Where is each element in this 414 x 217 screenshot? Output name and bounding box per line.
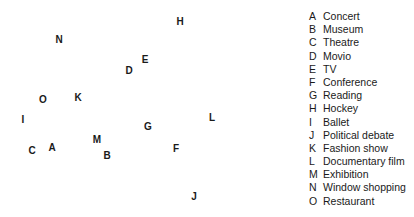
legend-key: J xyxy=(309,129,323,142)
legend-label: Restaurant xyxy=(323,195,374,208)
legend: AConcertBMuseumCTheatreDMovioETVFConfere… xyxy=(309,10,406,208)
legend-key: A xyxy=(309,10,323,23)
legend-key: G xyxy=(309,89,323,102)
legend-label: TV xyxy=(323,63,336,76)
legend-item: FConference xyxy=(309,76,406,89)
legend-key: K xyxy=(309,142,323,155)
point-b: B xyxy=(103,151,110,161)
legend-item: ORestaurant xyxy=(309,195,406,208)
point-n: N xyxy=(55,35,62,45)
point-f: F xyxy=(173,144,179,154)
legend-label: Exhibition xyxy=(323,168,369,181)
legend-label: Hockey xyxy=(323,102,358,115)
legend-item: KFashion show xyxy=(309,142,406,155)
point-d: D xyxy=(125,66,132,76)
point-o: O xyxy=(39,95,47,105)
legend-key: D xyxy=(309,50,323,63)
legend-item: LDocumentary film xyxy=(309,155,406,168)
legend-label: Ballet xyxy=(323,116,349,129)
legend-item: JPolitical debate xyxy=(309,129,406,142)
legend-item: IBallet xyxy=(309,116,406,129)
legend-label: Fashion show xyxy=(323,142,388,155)
legend-item: AConcert xyxy=(309,10,406,23)
legend-label: Window shopping xyxy=(323,181,406,194)
legend-key: N xyxy=(309,181,323,194)
point-i: I xyxy=(22,115,25,125)
legend-key: F xyxy=(309,76,323,89)
legend-item: ETV xyxy=(309,63,406,76)
legend-label: Movio xyxy=(323,50,351,63)
legend-item: HHockey xyxy=(309,102,406,115)
legend-key: I xyxy=(309,116,323,129)
legend-item: MExhibition xyxy=(309,168,406,181)
legend-label: Documentary film xyxy=(323,155,405,168)
point-g: G xyxy=(144,122,152,132)
legend-key: C xyxy=(309,36,323,49)
point-a: A xyxy=(48,143,55,153)
point-m: M xyxy=(93,135,101,145)
perceptual-map-plot: ABCDEFGHIJKLMNO xyxy=(0,0,290,217)
legend-label: Theatre xyxy=(323,36,359,49)
legend-key: O xyxy=(309,195,323,208)
legend-label: Political debate xyxy=(323,129,394,142)
legend-item: DMovio xyxy=(309,50,406,63)
legend-key: M xyxy=(309,168,323,181)
legend-item: GReading xyxy=(309,89,406,102)
legend-label: Concert xyxy=(323,10,360,23)
legend-key: L xyxy=(309,155,323,168)
point-j: J xyxy=(191,192,197,202)
legend-key: B xyxy=(309,23,323,36)
point-e: E xyxy=(142,55,149,65)
legend-label: Museum xyxy=(323,23,363,36)
legend-item: BMuseum xyxy=(309,23,406,36)
legend-label: Reading xyxy=(323,89,362,102)
legend-item: CTheatre xyxy=(309,36,406,49)
legend-key: E xyxy=(309,63,323,76)
legend-key: H xyxy=(309,102,323,115)
point-k: K xyxy=(74,93,81,103)
legend-item: NWindow shopping xyxy=(309,181,406,194)
point-l: L xyxy=(209,113,215,123)
point-c: C xyxy=(28,146,35,156)
point-h: H xyxy=(176,17,183,27)
legend-label: Conference xyxy=(323,76,377,89)
